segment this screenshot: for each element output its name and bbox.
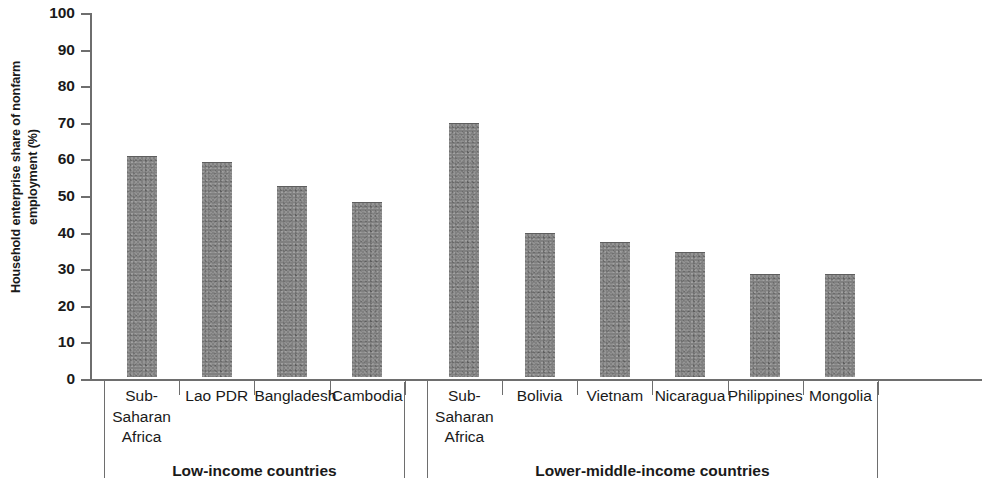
bar xyxy=(600,242,630,377)
y-axis-tick: 50 xyxy=(81,196,90,198)
x-axis-category-label: Lao PDR xyxy=(179,386,254,407)
y-axis-title-text: Household enterprise share of nonfarm em… xyxy=(8,12,42,342)
y-axis-tick-label: 10 xyxy=(58,332,75,352)
bar xyxy=(202,162,232,377)
y-axis-tick: 100 xyxy=(81,13,90,15)
y-axis-title-line-1: Household enterprise share of nonfarm xyxy=(8,12,25,342)
bar xyxy=(127,156,157,377)
x-axis-category-label-line: Lao PDR xyxy=(179,386,254,407)
x-axis-category-label-line: Cambodia xyxy=(330,386,405,407)
y-axis-tick-label: 20 xyxy=(58,296,75,316)
x-axis-category-label-line: Africa xyxy=(427,427,502,448)
y-axis-tick-label: 100 xyxy=(49,3,75,23)
y-axis-tick-label: 70 xyxy=(58,113,75,133)
plot-area: 1009080706050403020100 xyxy=(90,13,982,379)
bar-chart-figure: Household enterprise share of nonfarm em… xyxy=(0,0,982,499)
y-axis-line xyxy=(90,13,92,380)
x-axis-category-label: Sub-SaharanAfrica xyxy=(427,386,502,448)
y-axis-title: Household enterprise share of nonfarm em… xyxy=(0,0,44,390)
bar xyxy=(525,233,555,377)
x-axis-group: Sub-SaharanAfricaLao PDRBangladeshCambod… xyxy=(104,382,405,499)
x-axis-category-label-line: Philippines xyxy=(728,386,803,407)
x-axis-category-label-line: Sub- xyxy=(427,386,502,407)
x-axis-category-label: Bolivia xyxy=(502,386,577,407)
y-axis-tick-label: 40 xyxy=(58,223,75,243)
x-axis-category-label-line: Mongolia xyxy=(803,386,878,407)
x-axis-category-label-line: Saharan xyxy=(427,407,502,428)
y-axis-tick-label: 90 xyxy=(58,40,75,60)
x-axis-category-label: Vietnam xyxy=(577,386,652,407)
x-axis-category-label: Sub-SaharanAfrica xyxy=(104,386,179,448)
bar xyxy=(825,274,855,377)
bar xyxy=(352,202,382,377)
bar xyxy=(675,252,705,377)
y-axis-tick: 0 xyxy=(81,379,90,381)
x-axis-line xyxy=(90,379,982,381)
y-axis-tick: 70 xyxy=(81,123,90,125)
x-axis-category-label-line: Bangladesh xyxy=(254,386,329,407)
y-axis-tick: 10 xyxy=(81,342,90,344)
y-axis-tick: 60 xyxy=(81,159,90,161)
y-axis-tick-label: 30 xyxy=(58,259,75,279)
x-axis-category-label-line: Bolivia xyxy=(502,386,577,407)
y-axis-tick: 40 xyxy=(81,233,90,235)
x-axis-category-label: Philippines xyxy=(728,386,803,407)
x-axis-category-label: Bangladesh xyxy=(254,386,329,407)
y-axis-tick: 90 xyxy=(81,50,90,52)
y-axis-tick-label: 50 xyxy=(58,186,75,206)
x-axis-category-label: Cambodia xyxy=(330,386,405,407)
y-axis-title-line-2: employment (%) xyxy=(25,12,42,342)
x-axis-category-label-line: Africa xyxy=(104,427,179,448)
x-axis-category-label: Nicaragua xyxy=(652,386,727,407)
x-axis-group-title: Lower-middle-income countries xyxy=(427,462,878,480)
x-axis-category-label-line: Sub- xyxy=(104,386,179,407)
x-axis-category-label-line: Vietnam xyxy=(577,386,652,407)
group-boundary-tick xyxy=(878,381,879,395)
bar xyxy=(449,123,479,377)
group-boundary-tick xyxy=(405,381,406,395)
y-axis-tick-label: 80 xyxy=(58,76,75,96)
y-axis-tick: 20 xyxy=(81,306,90,308)
x-axis-group: Sub-SaharanAfricaBoliviaVietnamNicaragua… xyxy=(427,382,878,499)
x-axis-category-label-line: Saharan xyxy=(104,407,179,428)
x-axis-category-label-line: Nicaragua xyxy=(652,386,727,407)
bar xyxy=(277,186,307,377)
bar xyxy=(750,274,780,377)
x-axis-category-label: Mongolia xyxy=(803,386,878,407)
x-axis-group-title: Low-income countries xyxy=(104,462,405,480)
y-axis-tick-label: 0 xyxy=(66,369,75,389)
y-axis-tick: 80 xyxy=(81,86,90,88)
y-axis-tick: 30 xyxy=(81,269,90,271)
y-axis-tick-label: 60 xyxy=(58,149,75,169)
